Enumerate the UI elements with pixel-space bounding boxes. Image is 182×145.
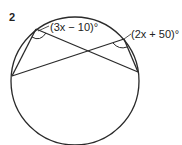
leader-left [38, 26, 49, 31]
circle [11, 17, 139, 145]
angle-label-left: (3x − 10)° [50, 21, 98, 33]
angle-label-right: (2x + 50)° [131, 28, 179, 40]
angle-arc-right [113, 43, 127, 48]
chord-b-c [12, 39, 124, 76]
circle-diagram: (3x − 10)° (2x + 50)° [0, 0, 182, 145]
chord-a-d [36, 29, 138, 72]
leader-right [124, 34, 131, 39]
